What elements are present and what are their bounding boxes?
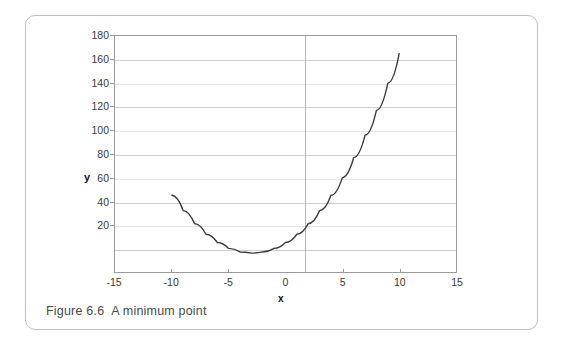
ytick-label-160: 160 [69,54,109,65]
figure-caption: Figure 6.6A minimum point [46,304,207,318]
ytick-mark-40 [110,202,115,203]
xtick-label-neg10: -10 [151,277,191,288]
curve-plot [115,36,456,272]
xtick-label-15: 15 [437,277,477,288]
figure-caption-label: Figure 6.6 [46,304,104,318]
ytick-label-40: 40 [69,197,109,208]
ytick-mark-20 [110,225,115,226]
chart-region: y x 180 160 140 120 100 80 60 40 20 [26,16,539,331]
ytick-mark-80 [110,154,115,155]
ytick-label-140: 140 [69,78,109,89]
ytick-label-60: 60 [69,173,109,184]
xtick-label-neg15: -15 [94,277,134,288]
xtick-mark-neg5 [228,269,229,273]
xtick-mark-10 [400,269,401,273]
xtick-mark-5 [343,269,344,273]
ytick-mark-120 [110,106,115,107]
xtick-label-0: 0 [266,277,306,288]
ytick-label-120: 120 [69,101,109,112]
figure-caption-text: A minimum point [111,304,206,318]
x-axis-title: x [278,293,284,304]
plot-area [114,35,457,273]
ytick-mark-100 [110,130,115,131]
ytick-label-20: 20 [69,220,109,231]
ytick-label-100: 100 [69,125,109,136]
ytick-mark-140 [110,83,115,84]
xtick-mark-neg10 [171,269,172,273]
ytick-label-180: 180 [69,30,109,41]
ytick-mark-180 [110,35,115,36]
ytick-mark-160 [110,59,115,60]
ytick-mark-60 [110,178,115,179]
xtick-label-5: 5 [323,277,363,288]
figure-card: y x 180 160 140 120 100 80 60 40 20 [25,15,538,330]
xtick-label-10: 10 [380,277,420,288]
ytick-label-80: 80 [69,149,109,160]
xtick-label-neg5: -5 [208,277,248,288]
